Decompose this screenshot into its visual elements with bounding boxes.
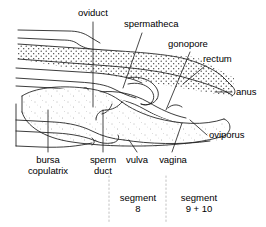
segment-label-8: segment 8 [120,192,156,214]
label-sperm-duct: sperm duct [90,155,116,176]
anatomy-figure: oviduct spermatheca gonopore rectum anus… [0,0,266,227]
segment-label-9-10: segment 9 + 10 [181,192,217,214]
label-vagina: vagina [159,155,187,166]
label-oviporus: oviporus [209,130,245,141]
label-gonopore: gonopore [168,39,208,50]
label-sperm-duct-line1: sperm [90,154,116,165]
label-vulva: vulva [126,155,148,166]
label-bursa-copulatrix: bursa copulatrix [28,155,68,176]
segment-8-line2: 8 [135,203,140,214]
gonopore-junction [168,105,182,108]
segment-9-10-line2: 9 + 10 [186,203,213,214]
label-spermatheca: spermatheca [124,19,178,30]
segment-8-line1: segment [120,192,156,203]
label-oviduct: oviduct [78,8,108,19]
segment-9-10-line1: segment [181,192,217,203]
label-bursa-line1: bursa [36,154,60,165]
label-sperm-duct-line2: duct [94,165,112,176]
label-rectum: rectum [203,54,232,65]
label-bursa-line2: copulatrix [28,165,68,176]
label-anus: anus [236,87,256,98]
